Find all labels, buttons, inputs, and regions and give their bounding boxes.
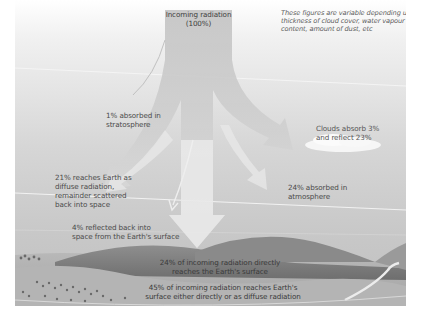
surface-reflect-line-2: space from the Earth's surface bbox=[72, 232, 179, 241]
atmosphere-label: 24% absorbed in atmosphere bbox=[288, 183, 347, 201]
note-line-2: thickness of cloud cover, water vapour bbox=[281, 17, 406, 25]
diffuse-radiation-label: 21% reaches Earth as diffuse radiation, … bbox=[55, 173, 132, 209]
incoming-line-2: (100%) bbox=[165, 19, 232, 28]
variability-note: These figures are variable depending upo… bbox=[281, 9, 406, 34]
stratosphere-line-2: stratosphere bbox=[106, 120, 161, 129]
radiation-diagram: Incoming radiation (100%) These figures … bbox=[15, 0, 406, 306]
surface-reflection-label: 4% reflected back into space from the Ea… bbox=[72, 223, 179, 241]
atmosphere-line-2: atmosphere bbox=[288, 192, 347, 201]
direct-radiation-label: 24% of incoming radiation directly reach… bbox=[155, 258, 285, 276]
diffuse-line-1: 21% reaches Earth as bbox=[55, 173, 132, 182]
total-surface-radiation-label: 45% of incoming radiation reaches Earth'… bbox=[143, 283, 303, 301]
stratosphere-label: 1% absorbed in stratosphere bbox=[106, 111, 161, 129]
incoming-radiation-label: Incoming radiation (100%) bbox=[165, 10, 232, 28]
clouds-line-1: Clouds absorb 3% bbox=[316, 124, 379, 133]
diffuse-line-3: remainder scattered bbox=[55, 191, 132, 200]
direct-line-1: 24% of incoming radiation directly bbox=[155, 258, 285, 267]
atmosphere-line-1: 24% absorbed in bbox=[288, 183, 347, 192]
stratosphere-line-1: 1% absorbed in bbox=[106, 111, 161, 120]
surface-reflect-line-1: 4% reflected back into bbox=[72, 223, 179, 232]
note-line-1: These figures are variable depending upo… bbox=[281, 9, 406, 17]
total-line-2: surface either directly or as diffuse ra… bbox=[143, 292, 303, 301]
clouds-label: Clouds absorb 3% and reflect 23% bbox=[316, 124, 379, 142]
total-line-1: 45% of incoming radiation reaches Earth'… bbox=[143, 283, 303, 292]
incoming-radiation-arrow bbox=[103, 10, 293, 248]
diffuse-line-2: diffuse radiation, bbox=[55, 182, 132, 191]
clouds-line-2: and reflect 23% bbox=[316, 133, 379, 142]
incoming-line-1: Incoming radiation bbox=[165, 10, 232, 19]
diffuse-line-4: back into space bbox=[55, 200, 132, 209]
direct-line-2: reaches the Earth's surface bbox=[155, 267, 285, 276]
note-line-3: content, amount of dust, etc bbox=[281, 25, 406, 33]
